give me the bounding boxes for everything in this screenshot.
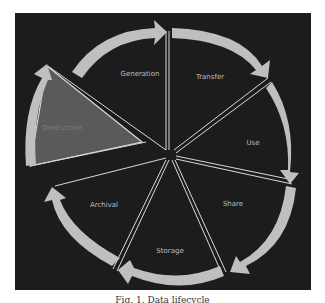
- label-storage: Storage: [156, 247, 183, 255]
- label-destruction: Destruction: [42, 124, 83, 132]
- arrow-storage: [118, 260, 224, 286]
- label-archival: Archival: [90, 201, 118, 209]
- label-generation: Generation: [120, 70, 159, 78]
- lifecycle-diagram: Generation Transfer Use Share Storage Ar…: [0, 0, 325, 303]
- label-transfer: Transfer: [195, 73, 224, 81]
- label-use: Use: [246, 139, 259, 147]
- label-share: Share: [223, 200, 243, 208]
- arrow-archival: [44, 187, 120, 266]
- arrow-transfer: [172, 28, 270, 78]
- figure-caption: Fig. 1. Data lifecycle: [0, 293, 325, 303]
- arrow-use: [266, 82, 299, 184]
